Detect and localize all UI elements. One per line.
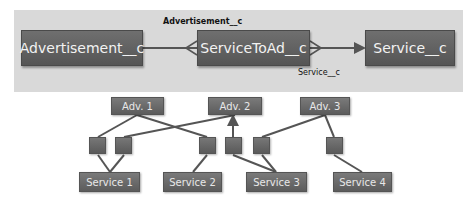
adv-3-box: Adv. 3 xyxy=(300,97,350,115)
service-relationship-label: Service__c xyxy=(298,68,340,77)
junction-record-2 xyxy=(115,137,132,154)
junction-record-5 xyxy=(253,137,270,154)
advertisement-object-box: Advertisement__c xyxy=(21,30,143,66)
junction-record-3 xyxy=(199,137,216,154)
service-1-box: Service 1 xyxy=(79,172,140,192)
advertisement-relationship-label: Advertisement__c xyxy=(163,17,242,26)
service-3-box: Service 3 xyxy=(246,172,307,192)
service-object-box: Service__c xyxy=(365,30,455,66)
adv-1-box: Adv. 1 xyxy=(111,97,164,115)
adv-2-box: Adv. 2 xyxy=(208,97,262,115)
service-4-box: Service 4 xyxy=(333,172,392,192)
junction-record-6 xyxy=(326,137,343,154)
junction-record-1 xyxy=(89,137,106,154)
service-2-box: Service 2 xyxy=(163,172,222,192)
service-to-ad-object-box: ServiceToAd__c xyxy=(197,30,310,66)
junction-record-4 xyxy=(225,137,242,154)
